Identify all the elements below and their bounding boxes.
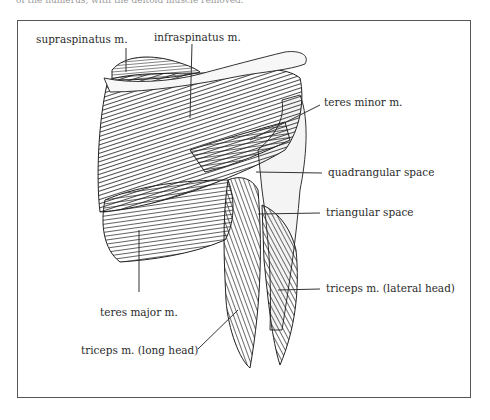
label-triceps-lateral-head: triceps m. (lateral head): [326, 282, 455, 294]
triceps-long-head: [224, 178, 260, 368]
label-teres-major: teres major m.: [100, 306, 178, 318]
label-quadrangular-space: quadrangular space: [328, 166, 434, 178]
label-teres-minor: teres minor m.: [324, 96, 402, 108]
shoulder-anatomy-illustration: [0, 0, 490, 420]
label-triceps-long-head: triceps m. (long head): [81, 344, 198, 356]
label-supraspinatus: supraspinatus m.: [36, 33, 128, 45]
label-infraspinatus: infraspinatus m.: [154, 31, 241, 43]
label-triangular-space: triangular space: [326, 206, 414, 218]
